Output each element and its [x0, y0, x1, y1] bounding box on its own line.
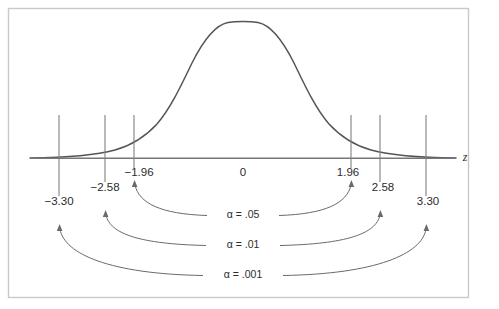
alpha-01-label: α = .01 — [227, 238, 260, 250]
alpha-01-arc-right — [280, 215, 380, 246]
tick-label-neg330: −3.30 — [44, 195, 73, 207]
tick-label-zero: 0 — [240, 166, 246, 178]
alpha-001-arrowhead-right — [424, 224, 430, 231]
alpha-05-arc-right — [279, 185, 351, 216]
alpha-001-arrowhead-left — [57, 224, 63, 231]
alpha-05-arc-left — [135, 185, 207, 216]
tick-label-pos330: 3.30 — [417, 195, 439, 207]
alpha-001-label: α = .001 — [224, 268, 263, 280]
tick-label-pos258: 2.58 — [372, 181, 394, 193]
normal-curve — [30, 21, 456, 158]
alpha-05-arrowhead-right — [349, 180, 355, 187]
tick-label-neg196: −1.96 — [124, 166, 153, 178]
alpha-01-arrowhead-right — [378, 210, 384, 217]
alpha-05-label: α = .05 — [227, 208, 260, 220]
tick-label-neg258: −2.58 — [90, 181, 119, 193]
figure-border — [9, 9, 469, 298]
tick-label-pos196: 1.96 — [337, 166, 359, 178]
alpha-01-arrowhead-left — [103, 210, 109, 217]
alpha-01-arc-left — [106, 215, 206, 246]
alpha-05-arrowhead-left — [132, 180, 138, 187]
normal-distribution-figure: −3.30 −2.58 −1.96 0 1.96 2.58 3.30 z α =… — [0, 0, 499, 309]
z-axis-label: z — [462, 150, 468, 164]
